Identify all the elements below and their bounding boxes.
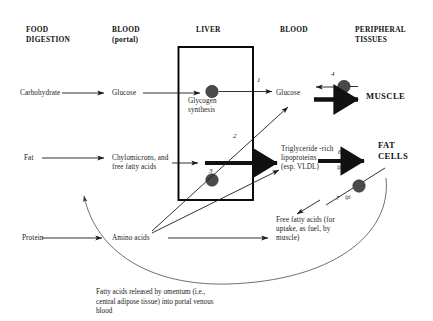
step-seven-node xyxy=(353,180,365,192)
node-chylomicrons: Chylomicrons, and free fatty acids xyxy=(112,154,168,172)
diagonal-step-seven xyxy=(326,168,385,205)
diagonal-gluconeogenesis-to-glucose xyxy=(152,107,288,231)
enzyme-label-lpl-six: lpl xyxy=(337,164,342,170)
glycogen-synthesis-node xyxy=(206,85,218,97)
column-header-line2: (portal) xyxy=(112,35,138,44)
label-glycogen-synthesis: Glycogen synthesis xyxy=(188,97,217,115)
column-header-liver: LIVER xyxy=(196,25,221,35)
step-number-1: 1 xyxy=(257,76,261,84)
node-free-fatty-acids: Free fatty acids (for uptake, as fuel, b… xyxy=(276,216,335,243)
node-glucose-blood: Glucose xyxy=(276,89,300,98)
metabolism-diagram: FOODDIGESTION BLOOD(portal) LIVER BLOOD … xyxy=(0,0,433,321)
step-four-node xyxy=(338,80,350,92)
column-header-blood-portal: BLOOD(portal) xyxy=(112,25,140,44)
column-header-line1: BLOOD xyxy=(280,25,308,34)
diagram-vector-layer xyxy=(0,0,433,321)
column-header-line1: PERIPHERAL xyxy=(355,25,406,34)
column-header-line2: DIGESTION xyxy=(26,35,70,44)
step-number-6: 6 xyxy=(338,148,342,156)
column-header-line2: TISSUES xyxy=(355,35,387,44)
step-number-7: 7 xyxy=(336,194,340,202)
diagonal-amino-acids-to-vldl xyxy=(152,170,279,233)
liver-box xyxy=(179,47,254,200)
step-number-4: 4 xyxy=(331,70,335,78)
diagram-caption: Fatty acids released by omentum (i.e., c… xyxy=(96,288,214,317)
column-header-blood: BLOOD xyxy=(280,25,308,35)
node-muscle: MUSCLE xyxy=(366,91,405,102)
column-header-peripheral-tissues: PERIPHERALTISSUES xyxy=(355,25,406,44)
column-header-food-digestion: FOODDIGESTION xyxy=(26,25,70,44)
node-amino-acids: Amino acids xyxy=(112,234,150,243)
step-number-5: 5 xyxy=(333,104,337,112)
step-number-3: 3 xyxy=(209,167,213,175)
node-protein: Protein xyxy=(22,234,43,243)
column-header-line1: LIVER xyxy=(196,25,221,34)
column-header-line1: BLOOD xyxy=(112,25,140,34)
node-fat-cells: FAT CELLS xyxy=(378,140,408,161)
step-number-2: 2 xyxy=(233,132,237,140)
enzyme-label-lpl-seven: lpl xyxy=(345,194,350,200)
step-three-node xyxy=(206,174,218,186)
arrow-into-free-fatty-acids xyxy=(297,200,320,214)
node-vldl: Triglyceride -rich lipoproteins (esp. VL… xyxy=(281,145,333,172)
column-header-line1: FOOD xyxy=(26,25,48,34)
node-glucose-portal: Glucose xyxy=(112,89,136,98)
omentum-recirculation-arc xyxy=(84,178,386,284)
node-fat: Fat xyxy=(24,154,34,163)
node-carbohydrate: Carbohydrate xyxy=(20,89,60,98)
